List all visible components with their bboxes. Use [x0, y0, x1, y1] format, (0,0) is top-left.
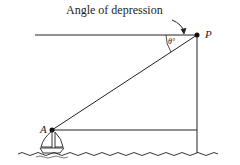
- diagram-canvas: [0, 0, 240, 165]
- label-p: P: [205, 28, 212, 40]
- label-a: A: [40, 123, 47, 135]
- angle-label: θ°: [168, 37, 175, 46]
- water-waves-2: [36, 156, 68, 158]
- arrow-head-icon: [181, 28, 186, 34]
- diagram-title: Angle of depression: [66, 3, 163, 18]
- line-of-sight: [52, 35, 197, 130]
- point-p: [195, 33, 200, 38]
